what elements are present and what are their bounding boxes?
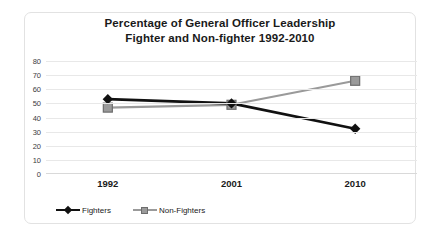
chart-title: Percentage of General Officer Leadership… <box>24 16 416 46</box>
gridline <box>46 146 417 147</box>
x-axis-tick-label: 2010 <box>345 178 366 189</box>
y-axis-tick-label: 50 <box>33 99 41 108</box>
y-axis-tick-label: 70 <box>33 71 41 80</box>
legend-marker-square-icon <box>141 207 148 214</box>
legend-entry-non-fighters[interactable]: Non-Fighters <box>133 203 205 217</box>
y-axis-tick-label: 80 <box>33 57 41 66</box>
y-axis-tick-label: 0 <box>37 170 41 179</box>
gridline <box>46 89 417 90</box>
gridline <box>46 173 417 174</box>
x-axis-tick-label: 2001 <box>221 178 242 189</box>
legend-label: Non-Fighters <box>159 206 205 215</box>
legend-swatch-icon <box>133 204 157 216</box>
gridline <box>46 103 417 104</box>
y-axis-tick-label: 10 <box>33 155 41 164</box>
y-axis-tick-label: 30 <box>33 127 41 136</box>
chart-title-line-2: Fighter and Non-fighter 1992-2010 <box>24 31 416 46</box>
chart-title-line-1: Percentage of General Officer Leadership <box>24 16 416 31</box>
x-axis: 199220012010 <box>46 178 417 194</box>
gridline <box>46 132 417 133</box>
gridline <box>46 61 417 62</box>
data-point-marker <box>351 76 360 85</box>
chart-legend: FightersNon-Fighters <box>56 203 205 217</box>
gridline <box>46 160 417 161</box>
legend-marker-diamond-icon <box>64 206 72 214</box>
legend-swatch-icon <box>56 204 80 216</box>
chart-screenshot: Percentage of General Officer Leadership… <box>0 0 440 238</box>
data-point-marker <box>103 103 112 112</box>
y-axis-tick-label: 60 <box>33 85 41 94</box>
x-axis-tick-label: 1992 <box>97 178 118 189</box>
gridline <box>46 118 417 119</box>
legend-entry-fighters[interactable]: Fighters <box>56 203 111 217</box>
legend-label: Fighters <box>82 206 111 215</box>
plot-area: 80706050403020100 <box>46 61 417 174</box>
y-axis-tick-label: 20 <box>33 141 41 150</box>
gridline <box>46 75 417 76</box>
y-axis-tick-label: 40 <box>33 113 41 122</box>
